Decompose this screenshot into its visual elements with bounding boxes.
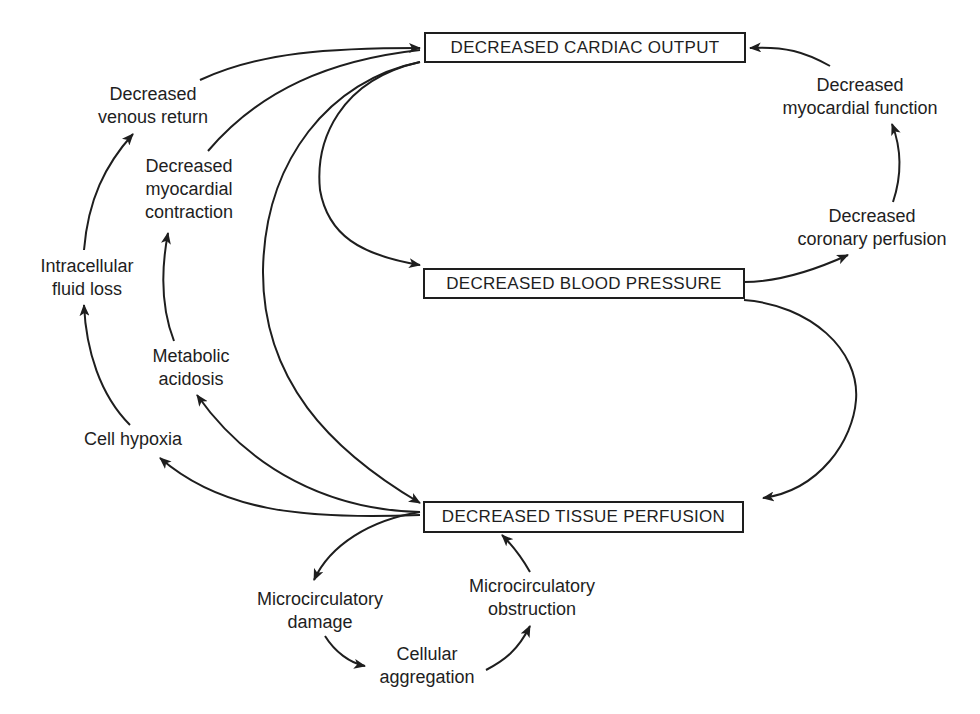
label-microcirculatory-damage: Microcirculatory damage — [257, 588, 383, 634]
node-decreased-tissue-perfusion: DECREASED TISSUE PERFUSION — [423, 501, 744, 533]
node-decreased-cardiac-output: DECREASED CARDIAC OUTPUT — [424, 32, 746, 63]
edge-cardiac-output-to-tissue-perfusion — [263, 62, 420, 503]
edge-blood-pressure-to-coronary-perfusion — [744, 255, 848, 282]
label-decreased-myocardial-function: Decreased myocardial function — [782, 74, 937, 120]
edge-damage-to-aggregation — [325, 636, 365, 666]
label-cell-hypoxia: Cell hypoxia — [84, 428, 182, 451]
label-decreased-coronary-perfusion: Decreased coronary perfusion — [797, 205, 946, 251]
edge-cardiac-output-to-blood-pressure — [319, 62, 420, 265]
edge-obstruction-to-tissue-perfusion — [502, 535, 530, 572]
edge-aggregation-to-obstruction — [486, 626, 530, 670]
edge-tissue-perfusion-to-damage — [314, 512, 420, 580]
edge-myocardial-function-to-cardiac-output — [750, 48, 830, 66]
edge-acidosis-to-myocardial-contraction — [163, 233, 174, 341]
label-decreased-venous-return: Decreased venous return — [98, 83, 208, 129]
edge-tissue-perfusion-to-acidosis — [197, 395, 420, 512]
edge-fluid-loss-to-venous-return — [84, 134, 133, 250]
label-microcirculatory-obstruction: Microcirculatory obstruction — [469, 575, 595, 621]
label-decreased-myocardial-contraction: Decreased myocardial contraction — [145, 155, 233, 224]
label-cellular-aggregation: Cellular aggregation — [379, 643, 474, 689]
edge-tissue-perfusion-to-hypoxia — [160, 458, 420, 516]
edge-coronary-to-myocardial-function — [892, 124, 900, 202]
node-decreased-blood-pressure: DECREASED BLOOD PRESSURE — [423, 268, 745, 299]
label-intracellular-fluid-loss: Intracellular fluid loss — [40, 255, 133, 301]
label-metabolic-acidosis: Metabolic acidosis — [152, 345, 229, 391]
edge-venous-return-to-cardiac-output — [200, 48, 420, 80]
edge-hypoxia-to-fluid-loss — [84, 305, 130, 425]
edge-blood-pressure-to-tissue-perfusion — [744, 300, 856, 498]
